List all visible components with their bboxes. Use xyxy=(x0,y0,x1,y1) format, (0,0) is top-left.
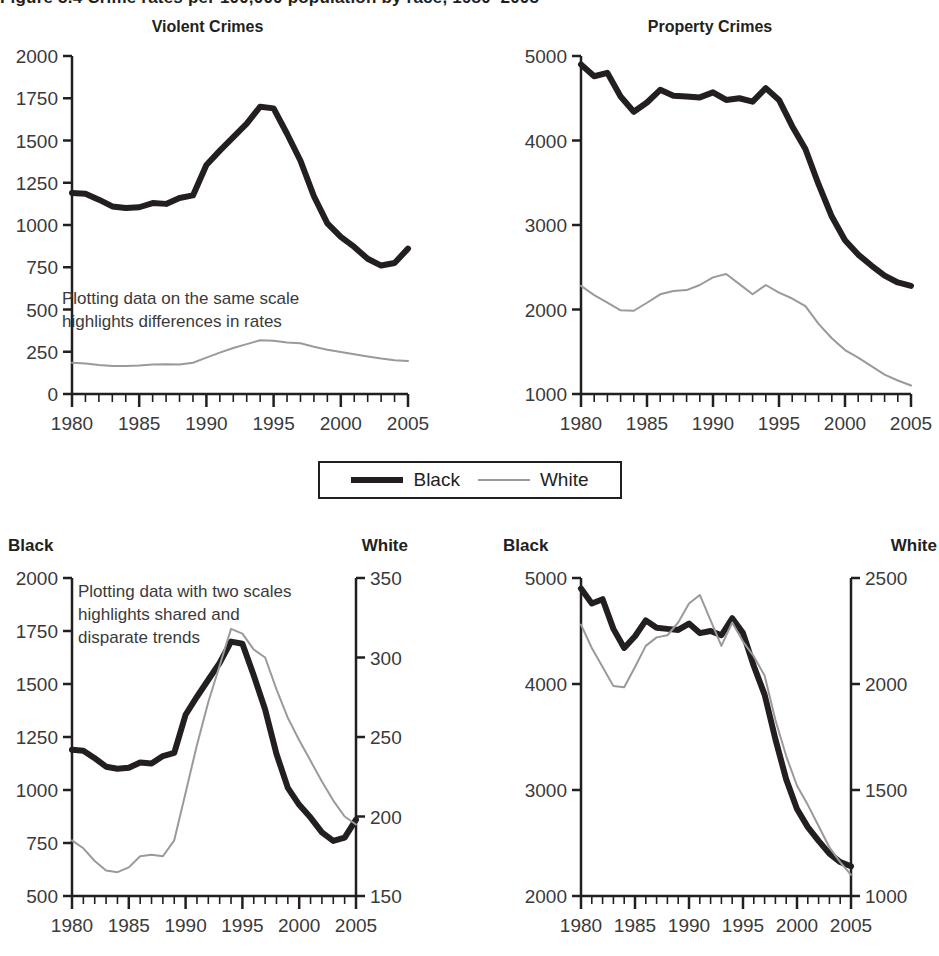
svg-text:1995: 1995 xyxy=(252,413,294,434)
svg-text:0: 0 xyxy=(47,384,58,405)
legend-label-black: Black xyxy=(413,469,459,491)
svg-text:1000: 1000 xyxy=(16,780,58,801)
svg-text:1000: 1000 xyxy=(16,215,58,236)
legend-label-white: White xyxy=(540,469,589,491)
svg-text:4000: 4000 xyxy=(525,131,567,152)
svg-text:2000: 2000 xyxy=(776,915,818,936)
svg-text:1980: 1980 xyxy=(560,413,602,434)
axis-header-black-right: Black xyxy=(503,536,548,556)
panel-property-crimes-dual-scale: Black White 2000300040005000100015002000… xyxy=(495,520,939,956)
svg-text:750: 750 xyxy=(26,257,58,278)
note-same-scale: Plotting data on the same scale highligh… xyxy=(62,288,382,334)
svg-text:1990: 1990 xyxy=(185,413,227,434)
svg-text:1995: 1995 xyxy=(758,413,800,434)
svg-text:3000: 3000 xyxy=(525,215,567,236)
svg-text:1985: 1985 xyxy=(118,413,160,434)
svg-text:250: 250 xyxy=(370,727,402,748)
svg-text:2000: 2000 xyxy=(278,915,320,936)
svg-text:1985: 1985 xyxy=(108,915,150,936)
svg-text:2005: 2005 xyxy=(387,413,429,434)
svg-text:1990: 1990 xyxy=(668,915,710,936)
figure-title: Figure 5.4 Crime rates per 100,000 popul… xyxy=(0,0,939,8)
svg-text:2500: 2500 xyxy=(865,568,907,589)
chart-violent-crimes-same-scale: 0250500750100012501500175020001980198519… xyxy=(0,46,430,446)
svg-text:1000: 1000 xyxy=(865,886,907,907)
panel-violent-crimes-same-scale: Violent Crimes 0250500750100012501500175… xyxy=(0,18,430,438)
legend: Black White xyxy=(318,461,622,499)
svg-text:5000: 5000 xyxy=(525,568,567,589)
svg-text:1995: 1995 xyxy=(221,915,263,936)
svg-text:1500: 1500 xyxy=(16,674,58,695)
chart-property-crimes-same-scale: 1000200030004000500019801985199019952000… xyxy=(495,46,939,446)
chart-property-crimes-dual-scale: 2000300040005000100015002000250019801985… xyxy=(495,568,939,948)
svg-text:1985: 1985 xyxy=(626,413,668,434)
note-dual-scale: Plotting data with two scales highlights… xyxy=(78,581,378,650)
svg-text:2000: 2000 xyxy=(525,886,567,907)
svg-text:3000: 3000 xyxy=(525,780,567,801)
svg-text:1980: 1980 xyxy=(51,413,93,434)
svg-text:1250: 1250 xyxy=(16,173,58,194)
legend-line-black-icon xyxy=(351,477,403,483)
svg-text:2000: 2000 xyxy=(525,300,567,321)
svg-text:1980: 1980 xyxy=(51,915,93,936)
legend-item-white: White xyxy=(478,469,589,491)
svg-text:250: 250 xyxy=(26,342,58,363)
svg-text:2005: 2005 xyxy=(335,915,377,936)
panel-property-crimes-same-scale: Property Crimes 100020003000400050001980… xyxy=(495,18,939,438)
svg-text:4000: 4000 xyxy=(525,674,567,695)
svg-text:5000: 5000 xyxy=(525,46,567,67)
svg-text:1500: 1500 xyxy=(16,131,58,152)
svg-text:150: 150 xyxy=(370,886,402,907)
axis-header-white-left: White xyxy=(362,536,408,556)
svg-text:1985: 1985 xyxy=(614,915,656,936)
svg-text:2005: 2005 xyxy=(890,413,932,434)
svg-text:300: 300 xyxy=(370,648,402,669)
svg-text:2000: 2000 xyxy=(865,674,907,695)
svg-text:750: 750 xyxy=(26,833,58,854)
axis-header-black-left: Black xyxy=(8,536,53,556)
svg-text:500: 500 xyxy=(26,886,58,907)
svg-text:1995: 1995 xyxy=(722,915,764,936)
svg-text:1750: 1750 xyxy=(16,621,58,642)
svg-text:1750: 1750 xyxy=(16,88,58,109)
axis-header-white-right: White xyxy=(891,536,937,556)
panel-title-property-crimes: Property Crimes xyxy=(495,18,925,36)
svg-text:1000: 1000 xyxy=(525,384,567,405)
svg-text:500: 500 xyxy=(26,300,58,321)
svg-text:1250: 1250 xyxy=(16,727,58,748)
svg-text:2000: 2000 xyxy=(16,568,58,589)
panel-title-violent-crimes: Violent Crimes xyxy=(0,18,415,36)
legend-line-white-icon xyxy=(478,479,530,481)
svg-text:1990: 1990 xyxy=(164,915,206,936)
svg-text:1980: 1980 xyxy=(560,915,602,936)
svg-text:200: 200 xyxy=(370,807,402,828)
svg-text:2000: 2000 xyxy=(824,413,866,434)
svg-text:2000: 2000 xyxy=(16,46,58,67)
svg-text:2000: 2000 xyxy=(320,413,362,434)
legend-item-black: Black xyxy=(351,469,459,491)
svg-text:1500: 1500 xyxy=(865,780,907,801)
svg-text:2005: 2005 xyxy=(830,915,872,936)
svg-text:1990: 1990 xyxy=(692,413,734,434)
